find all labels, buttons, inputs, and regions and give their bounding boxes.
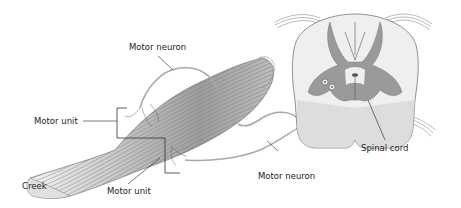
label-spinal-cord: Spinal cord (361, 144, 408, 153)
label-motor-neuron-top: Motor neuron (129, 43, 186, 52)
diagram-canvas (0, 0, 461, 208)
spinal-cord (292, 14, 418, 148)
label-motor-unit-left: Motor unit (34, 117, 78, 126)
muscle (20, 47, 280, 208)
label-motor-unit-bottom: Motor unit (107, 187, 151, 196)
label-creek: Creek (22, 182, 47, 191)
label-motor-neuron-bottom: Motor neuron (258, 172, 315, 181)
